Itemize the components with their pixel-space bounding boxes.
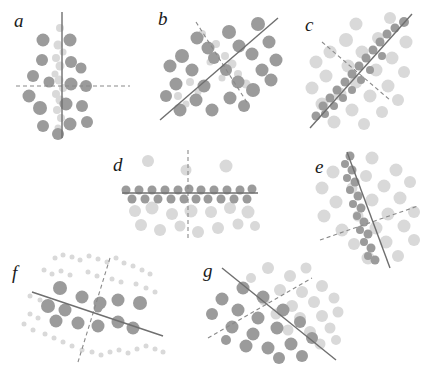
data-point-dark — [76, 100, 88, 112]
data-point-dark — [230, 195, 239, 204]
data-point-light — [404, 176, 416, 188]
data-point-dark — [248, 185, 257, 194]
data-point-dark — [246, 48, 259, 61]
data-point-light — [394, 192, 407, 205]
data-point-light — [301, 263, 312, 274]
data-point-dark — [76, 291, 89, 304]
data-point-light — [306, 82, 319, 95]
data-point-light — [386, 52, 399, 65]
data-point-light — [43, 332, 48, 337]
data-point-dark — [333, 86, 342, 95]
data-point-dark — [238, 100, 250, 112]
data-point-light — [144, 344, 149, 349]
data-point-dark — [190, 94, 203, 107]
data-point-light — [28, 312, 33, 317]
data-point-light — [316, 280, 328, 292]
data-point-light — [52, 336, 57, 341]
data-point-dark — [53, 281, 67, 295]
data-point-light — [382, 80, 395, 93]
data-point-light — [246, 273, 256, 283]
data-point-light — [70, 344, 75, 349]
data-point-light — [126, 351, 131, 356]
data-point-light — [140, 268, 145, 273]
data-point-light — [117, 348, 122, 353]
data-point-dark — [133, 296, 147, 310]
data-point-light — [99, 353, 104, 358]
data-point-light — [205, 206, 217, 218]
data-point-dark — [364, 230, 373, 239]
data-point-light — [53, 256, 58, 261]
data-point-dark — [141, 195, 150, 204]
data-point-dark — [37, 34, 50, 47]
data-point-light — [333, 307, 344, 318]
data-point-light — [54, 41, 63, 50]
data-point-light — [316, 182, 329, 195]
data-point-dark — [204, 195, 213, 204]
data-point-dark — [185, 185, 194, 194]
data-point-light — [308, 296, 320, 308]
data-point-dark — [222, 25, 236, 39]
data-point-light — [114, 256, 119, 261]
data-point-light — [366, 152, 379, 165]
data-point-light — [390, 164, 403, 177]
data-point-dark — [154, 195, 163, 204]
data-point-light — [122, 261, 127, 266]
data-point-light — [142, 155, 154, 167]
data-point-light — [400, 36, 413, 49]
data-point-dark — [341, 160, 349, 168]
data-point-dark — [64, 34, 77, 47]
data-point-light — [134, 282, 139, 287]
panel-label-g: g — [203, 260, 213, 281]
data-point-light — [57, 114, 65, 122]
data-point-light — [174, 92, 182, 100]
data-point-light — [38, 298, 43, 303]
dark-cluster-f — [41, 281, 147, 335]
data-point-dark — [378, 52, 386, 60]
data-point-light — [283, 325, 294, 336]
data-point-light — [154, 224, 166, 236]
data-point-light — [50, 272, 55, 277]
data-point-light — [378, 180, 391, 193]
data-point-dark — [391, 24, 400, 33]
panel-label-e: e — [315, 156, 323, 177]
light-cluster-g — [246, 262, 344, 350]
data-point-light — [52, 54, 60, 62]
data-point-light — [90, 350, 95, 355]
data-point-dark — [23, 90, 36, 103]
data-point-dark — [192, 195, 201, 204]
data-point-dark — [353, 212, 361, 220]
data-point-light — [329, 293, 340, 304]
data-point-dark — [367, 244, 376, 253]
data-point-light — [70, 255, 75, 260]
dark-cluster-c — [312, 17, 410, 121]
data-point-light — [392, 250, 404, 262]
data-point-light — [153, 290, 158, 295]
data-point-light — [186, 78, 194, 86]
data-point-dark — [265, 74, 278, 87]
data-point-dark — [37, 120, 49, 132]
data-point-dark — [65, 78, 78, 91]
data-point-light — [242, 206, 255, 219]
data-point-light — [61, 253, 66, 258]
data-point-dark — [233, 40, 246, 53]
dark-cluster-d — [122, 185, 257, 204]
dark-cluster-e — [341, 152, 380, 265]
panel-label-c: c — [305, 14, 314, 35]
data-point-light — [339, 33, 353, 47]
data-point-dark — [224, 92, 237, 105]
panel-label-b: b — [158, 8, 168, 29]
data-point-light — [146, 202, 159, 215]
data-point-light — [78, 258, 83, 263]
data-point-light — [166, 208, 178, 220]
data-point-dark — [81, 116, 93, 128]
data-point-dark — [167, 195, 176, 204]
data-point-dark — [296, 350, 308, 362]
data-point-light — [153, 347, 158, 352]
data-point-dark — [175, 49, 189, 63]
data-point-light — [328, 116, 341, 129]
data-point-dark — [164, 60, 177, 73]
data-point-light — [185, 205, 198, 218]
panel-d: d — [113, 150, 260, 240]
data-point-light — [59, 269, 64, 274]
data-point-light — [392, 94, 404, 106]
